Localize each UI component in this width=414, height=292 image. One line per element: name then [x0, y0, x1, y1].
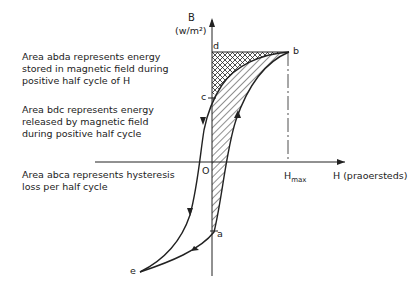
point-b: b: [293, 45, 299, 56]
note-abda: Area abda represents energy stored in ma…: [22, 51, 169, 87]
origin-label: O: [202, 165, 209, 176]
note-abca: Area abca represents hysteresis loss per…: [22, 169, 175, 193]
x-axis-label: H (praoersteds): [333, 170, 407, 181]
hysteresis-plot: [0, 0, 414, 292]
b-axis-label: B: [188, 12, 195, 23]
arrow-down-icon: [187, 208, 193, 216]
hmax-label: Hmax: [284, 170, 306, 184]
hmax-sub: max: [291, 176, 306, 184]
b-axis-unit: (w/m²): [175, 25, 206, 36]
point-d: d: [213, 40, 219, 51]
b-axis-arrow-icon: [209, 18, 215, 27]
note-bdc: Area bdc represents energy released by m…: [22, 104, 154, 140]
point-e: e: [130, 265, 136, 276]
hysteresis-diagram: B (w/m²) H (praoersteds) O Hmax d b c a …: [0, 0, 414, 292]
point-c: c: [201, 91, 206, 102]
point-a: a: [217, 228, 223, 239]
h-axis-arrow-icon: [337, 159, 345, 165]
